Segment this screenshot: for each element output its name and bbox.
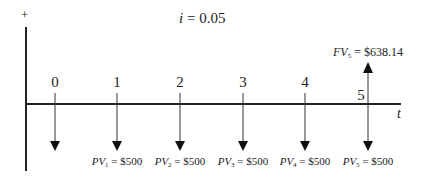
time-axis-label: t — [397, 107, 401, 121]
rate-value: 0.05 — [199, 10, 225, 26]
axis-plus-label: + — [21, 8, 28, 21]
arrow-heads-down — [50, 141, 373, 151]
interest-rate-label: i = 0.05 — [179, 11, 225, 26]
period-label-1: 1 — [113, 75, 121, 90]
period-label-4: 4 — [301, 75, 309, 90]
pv-label-2: PV2 = $500 — [155, 156, 206, 169]
pv-label-5: PV5 = $500 — [343, 156, 394, 169]
arrow-head-up — [363, 62, 373, 73]
period-label-2: 2 — [176, 75, 184, 90]
pv-label-3: PV3 = $500 — [218, 156, 269, 169]
pv-label-4: PV4 = $500 — [280, 156, 331, 169]
pv-label-1: PV1 = $500 — [92, 156, 143, 169]
rate-equals: = — [183, 10, 199, 26]
period-label-5: 5 — [357, 88, 365, 103]
period-label-3: 3 — [239, 75, 247, 90]
period-label-0: 0 — [51, 75, 59, 90]
fv-label: FV5 = $638.14 — [333, 46, 403, 60]
